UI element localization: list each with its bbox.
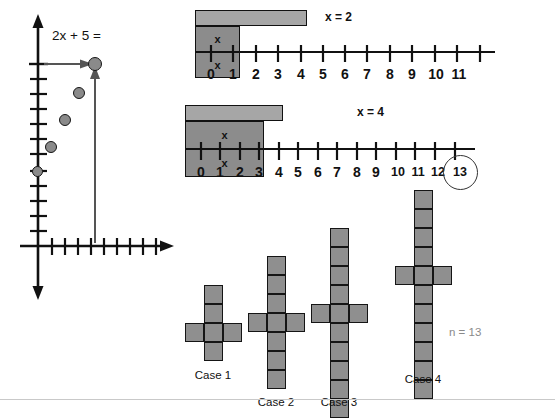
square xyxy=(414,209,433,228)
square xyxy=(414,228,433,247)
square-arm-right xyxy=(223,323,242,342)
square-arm-left xyxy=(248,313,267,332)
tick-label: 11 xyxy=(411,165,424,179)
answer-circle xyxy=(443,155,478,190)
case-2-figure: Case 2 xyxy=(245,256,317,401)
square-arm-left xyxy=(395,266,414,285)
bottom-divider xyxy=(0,399,555,400)
square xyxy=(414,266,433,285)
tick-label: 7 xyxy=(333,164,341,180)
square xyxy=(330,361,349,380)
tick-label: 9 xyxy=(372,164,380,180)
tick-label: 0 xyxy=(207,66,215,82)
square xyxy=(267,332,286,351)
tick-label: 6 xyxy=(341,66,349,82)
tick-label: 0 xyxy=(197,164,205,180)
graph-axes xyxy=(0,0,180,300)
square xyxy=(414,285,433,304)
n-annotation: n = 13 xyxy=(449,326,481,338)
square xyxy=(330,285,349,304)
tick-label: 5 xyxy=(294,164,302,180)
square xyxy=(414,323,433,342)
square-arm-right xyxy=(433,266,452,285)
square xyxy=(330,228,349,247)
tick-label: 6 xyxy=(314,164,322,180)
tick-label: 4 xyxy=(297,66,305,82)
square xyxy=(330,342,349,361)
data-point-origin xyxy=(32,166,43,177)
square xyxy=(330,266,349,285)
square xyxy=(204,323,223,342)
square xyxy=(204,285,223,304)
tick-label: 10 xyxy=(428,66,444,82)
tick-label: 11 xyxy=(452,66,467,82)
square xyxy=(414,247,433,266)
square-arm-left xyxy=(185,323,204,342)
square xyxy=(267,351,286,370)
number-line-1-axis xyxy=(195,10,525,90)
case-1-figure: Case 1 xyxy=(182,285,254,400)
case-3-label: Case 3 xyxy=(321,396,357,408)
square xyxy=(267,256,286,275)
square xyxy=(267,313,286,332)
square xyxy=(267,275,286,294)
tick-label: 4 xyxy=(275,164,283,180)
square xyxy=(414,342,433,361)
square xyxy=(330,247,349,266)
tick-label: 3 xyxy=(255,164,263,180)
number-line-1: x = 2 x x 0 1 2 3 4 5 6 7 8 xyxy=(195,10,525,90)
number-line-2: x = 4 x x 0 1 2 3 4 5 6 7 xyxy=(185,105,535,190)
equation-label: 2x + 5 = xyxy=(52,28,101,43)
tick-label: 10 xyxy=(391,165,405,179)
tick-label: 8 xyxy=(353,164,361,180)
data-point xyxy=(45,141,57,153)
square xyxy=(204,342,223,361)
square xyxy=(414,304,433,323)
tick-label: 1 xyxy=(229,66,237,82)
square xyxy=(267,294,286,313)
case-1-label: Case 1 xyxy=(195,369,231,381)
square-arm-left xyxy=(311,304,330,323)
tick-label: 1 xyxy=(216,164,224,180)
square xyxy=(414,190,433,209)
square-arm-right xyxy=(286,313,305,332)
square xyxy=(330,323,349,342)
case-4-label: Case 4 xyxy=(405,373,441,385)
data-point-highlighted xyxy=(88,57,102,71)
case-2-label: Case 2 xyxy=(258,396,294,408)
data-point xyxy=(59,114,71,126)
tick-label: 3 xyxy=(274,66,282,82)
tick-label: 9 xyxy=(408,66,416,82)
tick-label: 5 xyxy=(319,66,327,82)
square xyxy=(330,304,349,323)
tick-label: 8 xyxy=(386,66,394,82)
square xyxy=(267,370,286,389)
tick-label: 7 xyxy=(363,66,371,82)
case-4-figure: Case 4 xyxy=(392,190,464,402)
tick-label: 2 xyxy=(236,164,244,180)
case-3-figure: Case 3 xyxy=(308,228,380,403)
square-arm-right xyxy=(349,304,368,323)
tick-label: 2 xyxy=(252,66,260,82)
square xyxy=(204,304,223,323)
data-point xyxy=(73,87,85,99)
coordinate-graph: 2x + 5 = xyxy=(0,0,180,300)
